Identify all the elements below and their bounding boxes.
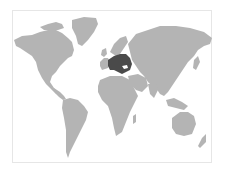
region-north-america bbox=[14, 30, 74, 96]
region-scandinavia bbox=[110, 36, 128, 56]
region-new-zealand bbox=[198, 134, 206, 148]
region-madagascar bbox=[133, 114, 136, 124]
region-india bbox=[148, 84, 158, 98]
region-greenland bbox=[72, 17, 98, 46]
region-southeast-asia bbox=[166, 98, 188, 110]
region-arctic-islands bbox=[40, 22, 64, 30]
region-uk bbox=[101, 48, 107, 57]
region-south-america bbox=[62, 98, 88, 158]
region-central-america bbox=[54, 88, 66, 100]
region-australia bbox=[172, 112, 196, 136]
world-map bbox=[0, 0, 226, 174]
region-highlighted-central-eastern-europe bbox=[108, 54, 132, 74]
region-japan bbox=[193, 56, 200, 70]
